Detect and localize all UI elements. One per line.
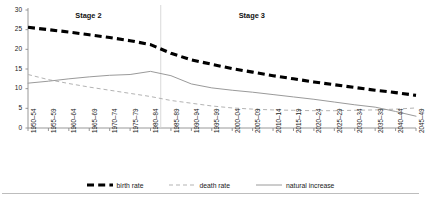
y-tick-label: 20	[6, 46, 22, 53]
bottom-frame-rule	[2, 193, 419, 194]
x-tick-label: 1950–54	[31, 108, 37, 133]
thick-dashed-swatch	[87, 182, 113, 188]
y-tick-label: 15	[6, 66, 22, 73]
x-tick-label: 1955–59	[51, 108, 57, 133]
x-tick-label: 1965–69	[92, 108, 98, 133]
y-tick-label: 30	[6, 7, 22, 14]
legend-item[interactable]: birth rate	[87, 182, 144, 189]
legend-item[interactable]: natural increase	[256, 182, 334, 189]
thin-dashed-swatch	[169, 182, 195, 188]
x-tick-label: 1970–74	[112, 108, 118, 133]
y-tick-label: 5	[6, 105, 22, 112]
chart-legend: birth ratedeath ratenatural increase	[0, 178, 421, 192]
x-tick-label: 1985–89	[174, 108, 180, 133]
x-tick-label: 2010–14	[276, 108, 282, 133]
x-tick-label: 1990–94	[194, 108, 200, 133]
legend-label: death rate	[199, 182, 230, 189]
x-tick-label: 1995–99	[214, 108, 220, 133]
x-tick-label: 2030–34	[357, 108, 363, 133]
x-tick-label: 1980–84	[153, 108, 159, 133]
x-tick-label: 2035–39	[378, 108, 384, 133]
stage-annotation-label: Stage 2	[75, 11, 101, 20]
legend-label: natural increase	[286, 182, 334, 189]
x-tick-label: 1960–64	[71, 108, 77, 133]
x-tick-label: 2020–24	[316, 108, 322, 133]
y-tick-label: 0	[6, 125, 22, 132]
x-tick-label: 2045–49	[419, 108, 425, 133]
x-tick-label: 2015–19	[296, 108, 302, 133]
x-tick-label: 2005–09	[255, 108, 261, 133]
legend-item[interactable]: death rate	[169, 182, 230, 189]
thin-solid-swatch	[256, 182, 282, 188]
y-tick-label: 25	[6, 26, 22, 33]
y-tick-label: 10	[6, 85, 22, 92]
legend-label: birth rate	[117, 182, 144, 189]
x-tick-label: 2000–04	[235, 108, 241, 133]
x-tick-label: 2025–29	[337, 108, 343, 133]
x-tick-label: 1975–79	[133, 108, 139, 133]
x-tick-label: 2040–44	[398, 108, 404, 133]
stage-annotation-label: Stage 3	[239, 11, 265, 20]
series-line-birth-rate	[28, 27, 416, 95]
data-series-group	[28, 27, 416, 116]
